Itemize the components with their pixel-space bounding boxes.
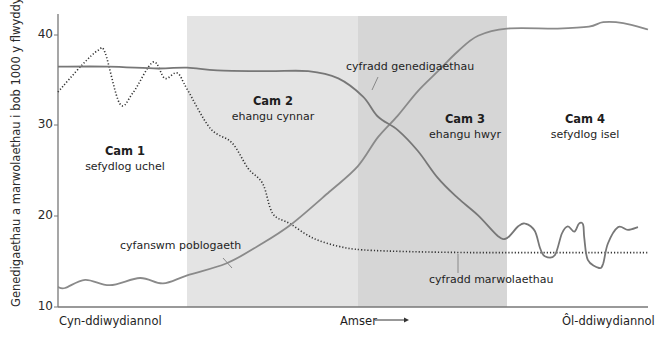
stage-3-title: Cam 3 [420, 112, 510, 127]
y-tick-label-10: 10 [27, 299, 53, 313]
stage-3-subtitle: ehangu hwyr [420, 127, 510, 142]
stage-2-label: Cam 2 ehangu cynnar [218, 94, 328, 124]
y-tick-label-40: 40 [27, 27, 53, 41]
y-axis-label: Genedigaethau a marwolaethau i bob 1000 … [9, 17, 25, 307]
stage-2-shading [187, 16, 358, 307]
y-tick-label-20: 20 [27, 208, 53, 222]
stage-1-subtitle: sefydlog uchel [70, 159, 180, 174]
stage-4-title: Cam 4 [535, 112, 635, 127]
x-label-right: Ôl-ddiwydiannol [562, 314, 655, 328]
death-rate-annotation: cyfradd marwolaethau [429, 273, 553, 286]
stage-4-label: Cam 4 sefydlog isel [535, 112, 635, 142]
population-annotation: cyfanswm poblogaeth [120, 239, 241, 252]
stage-2-title: Cam 2 [218, 94, 328, 109]
x-axis-label: Amser [340, 314, 377, 328]
birth-rate-annotation: cyfradd genedigaethau [346, 60, 474, 73]
stage-3-label: Cam 3 ehangu hwyr [420, 112, 510, 142]
stage-1-title: Cam 1 [70, 144, 180, 159]
stage-4-subtitle: sefydlog isel [535, 127, 635, 142]
y-tick-label-30: 30 [27, 117, 53, 131]
time-arrow-head [404, 318, 409, 323]
x-label-left: Cyn-ddiwydiannol [59, 314, 162, 328]
stage-1-label: Cam 1 sefydlog uchel [70, 144, 180, 174]
stage-2-subtitle: ehangu cynnar [218, 109, 328, 124]
